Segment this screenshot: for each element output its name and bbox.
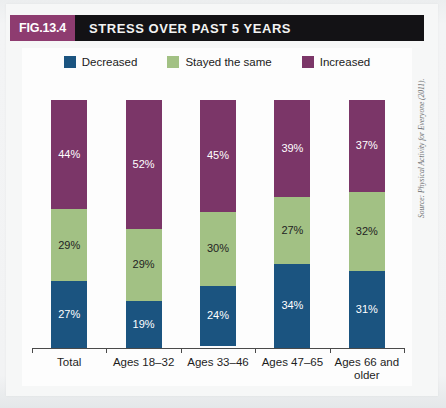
stacked-bar-plot: 44%29%27%52%29%19%45%30%24%39%27%34%37%3… [32,100,404,348]
bar-segment-label: 31% [356,304,378,315]
legend-item: Stayed the same [167,56,271,68]
bar-segment-label: 27% [281,225,303,236]
chart-area: DecreasedStayed the sameIncreased 44%29%… [22,48,412,386]
bar-segment: 52% [126,100,162,229]
bar-segment-label: 30% [207,243,229,254]
bar-segment-label: 39% [281,143,303,154]
bar-segment: 27% [274,197,310,264]
bar-segment: 45% [200,100,236,212]
x-axis-tick [32,348,33,353]
legend-item: Decreased [64,56,138,68]
bar-segment-label: 44% [58,149,80,160]
bar-segment-label: 52% [133,159,155,170]
bar-segment-label: 45% [207,150,229,161]
bar-segment-label: 32% [356,226,378,237]
bar-segment: 30% [200,212,236,286]
legend-label: Stayed the same [185,56,271,68]
legend-label: Increased [320,56,371,68]
stacked-bar: 44%29%27% [51,100,87,348]
bar-segment: 34% [274,264,310,348]
bar-segment-label: 34% [281,300,303,311]
source-note: Source: Physical Activity for Everyone (… [417,79,426,218]
stacked-bar: 52%29%19% [126,100,162,348]
x-axis-tick [330,348,331,353]
bar-segment: 44% [51,100,87,209]
bar-column: 44%29%27% [51,100,87,348]
legend-swatch-icon [302,56,314,68]
x-axis-line [32,348,404,349]
stacked-bar: 39%27%34% [274,100,310,348]
bar-segment-label: 24% [207,310,229,321]
bar-segment: 27% [51,281,87,348]
legend-label: Decreased [82,56,138,68]
bar-segment-label: 29% [58,240,80,251]
bar-segment: 31% [349,271,385,348]
bar-segment: 29% [126,229,162,301]
x-axis-category-label: Ages 18–32 [106,356,180,369]
bar-segment: 32% [349,192,385,271]
figure-title-bar: FIG.13.4 STRESS OVER PAST 5 YEARS [10,15,424,41]
legend-swatch-icon [64,56,76,68]
legend-item: Increased [302,56,371,68]
bar-column: 39%27%34% [274,100,310,348]
chart-legend: DecreasedStayed the sameIncreased [22,56,412,68]
bar-column: 37%32%31% [349,100,385,348]
bar-segment: 37% [349,100,385,192]
bar-segment: 29% [51,209,87,281]
figure-number-badge: FIG.13.4 [10,15,75,41]
x-axis-category-label: Total [32,356,106,369]
bar-segment: 19% [126,301,162,348]
bar-column: 52%29%19% [126,100,162,348]
bar-column: 45%30%24% [200,100,236,348]
bar-segment: 24% [200,286,236,346]
bar-segment-label: 19% [133,319,155,330]
x-axis-tick [181,348,182,353]
x-axis-category-label: Ages 47–65 [255,356,329,369]
x-axis-tick [106,348,107,353]
x-axis-tick [255,348,256,353]
x-axis-category-label: Ages 66 and older [330,356,404,382]
x-axis-tick [404,348,405,353]
figure-title: STRESS OVER PAST 5 YEARS [75,15,291,41]
stacked-bar: 37%32%31% [349,100,385,348]
bar-segment-label: 29% [133,259,155,270]
bar-segment: 39% [274,100,310,197]
bar-segment-label: 37% [356,140,378,151]
x-axis-labels: TotalAges 18–32Ages 33–46Ages 47–65Ages … [32,356,404,390]
legend-swatch-icon [167,56,179,68]
x-axis-category-label: Ages 33–46 [181,356,255,369]
stacked-bar: 45%30%24% [200,100,236,348]
bar-segment-label: 27% [58,309,80,320]
